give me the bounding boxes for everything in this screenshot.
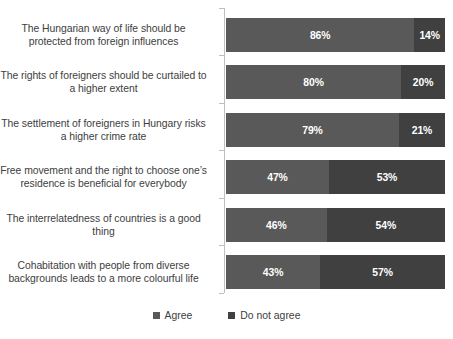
- bar-segment-do-not-agree[interactable]: 21%: [399, 113, 445, 147]
- bar-segment-agree[interactable]: 46%: [226, 208, 327, 242]
- category-label: The interrelatedness of countries is a g…: [0, 212, 216, 239]
- chart-row: The Hungarian way of life should be prot…: [0, 12, 453, 58]
- category-label: The Hungarian way of life should be prot…: [0, 22, 216, 49]
- stacked-bar: 86% 14%: [226, 18, 445, 52]
- chart-row: The rights of foreigners should be curta…: [0, 59, 453, 105]
- category-label: Free movement and the right to choose on…: [0, 164, 216, 191]
- bar-segment-agree[interactable]: 86%: [226, 18, 414, 52]
- bar-segment-agree[interactable]: 43%: [226, 255, 320, 289]
- chart-row: Cohabitation with people from diverse ba…: [0, 249, 453, 295]
- chart-row: The interrelatedness of countries is a g…: [0, 202, 453, 248]
- bar-segment-agree[interactable]: 80%: [226, 65, 401, 99]
- stacked-bar: 47% 53%: [226, 160, 445, 194]
- legend-item-agree[interactable]: Agree: [153, 310, 193, 321]
- stacked-bar: 80% 20%: [226, 65, 445, 99]
- stacked-bar-chart: The Hungarian way of life should be prot…: [0, 0, 453, 339]
- stacked-bar: 79% 21%: [226, 113, 445, 147]
- legend-label: Do not agree: [240, 310, 300, 321]
- plot-area: The Hungarian way of life should be prot…: [0, 0, 453, 300]
- category-label: The rights of foreigners should be curta…: [0, 69, 216, 96]
- bar-segment-do-not-agree[interactable]: 20%: [401, 65, 445, 99]
- bar-segment-do-not-agree[interactable]: 53%: [329, 160, 445, 194]
- category-label: Cohabitation with people from diverse ba…: [0, 259, 216, 286]
- category-label: The settlement of foreigners in Hungary …: [0, 117, 216, 144]
- legend-swatch-icon: [153, 312, 160, 319]
- stacked-bar: 46% 54%: [226, 208, 445, 242]
- chart-row: Free movement and the right to choose on…: [0, 154, 453, 200]
- legend-item-do-not-agree[interactable]: Do not agree: [228, 310, 300, 321]
- stacked-bar: 43% 57%: [226, 255, 445, 289]
- chart-row: The settlement of foreigners in Hungary …: [0, 107, 453, 153]
- axis-tick: [219, 8, 224, 9]
- bar-segment-do-not-agree[interactable]: 54%: [327, 208, 445, 242]
- chart-legend: Agree Do not agree: [0, 306, 453, 324]
- legend-swatch-icon: [228, 312, 235, 319]
- bar-segment-agree[interactable]: 47%: [226, 160, 329, 194]
- bar-segment-do-not-agree[interactable]: 14%: [414, 18, 445, 52]
- legend-label: Agree: [165, 310, 193, 321]
- bar-segment-agree[interactable]: 79%: [226, 113, 399, 147]
- bar-segment-do-not-agree[interactable]: 57%: [320, 255, 445, 289]
